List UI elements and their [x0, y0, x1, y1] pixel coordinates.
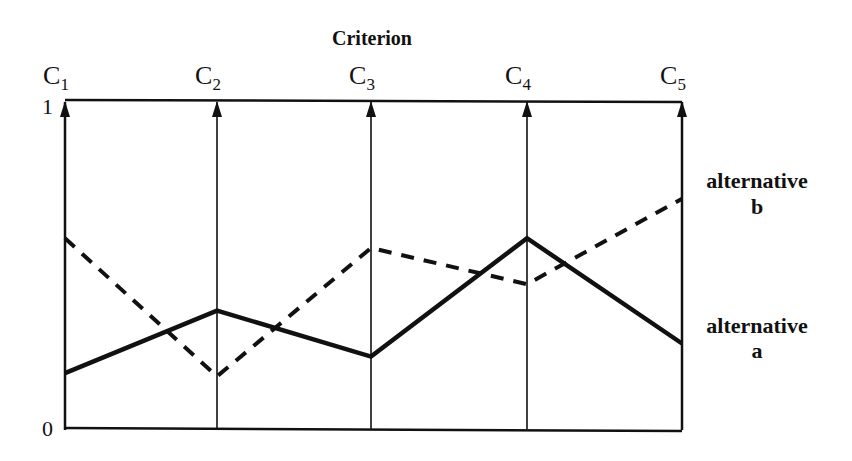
y-tick-max: 1 — [42, 94, 53, 119]
legend-alternative-b: alternative b — [706, 168, 808, 219]
parallel-coordinates-chart: Criterion C1C2C3C4C5 1 0 alternative b a… — [0, 0, 852, 461]
series-lines — [65, 199, 682, 377]
criterion-label-2: C2 — [195, 61, 221, 94]
series-line-alternative-b — [65, 199, 682, 377]
chart-title: Criterion — [332, 27, 412, 49]
criterion-label-3: C3 — [349, 61, 375, 94]
legend-label-a-line2: a — [752, 338, 763, 363]
criterion-axes: C1C2C3C4C5 — [43, 61, 686, 430]
criterion-label-5: C5 — [660, 61, 686, 94]
series-line-alternative-a — [65, 238, 682, 373]
legend-label-b-line1: alternative — [706, 168, 808, 193]
criterion-label-4: C4 — [505, 61, 531, 94]
baseline-axis — [65, 428, 682, 431]
top-boundary-line — [65, 100, 682, 102]
legend-alternative-a: alternative a — [706, 313, 808, 363]
legend-label-b-line2: b — [751, 194, 763, 219]
criterion-label-1: C1 — [43, 61, 69, 94]
legend-label-a-line1: alternative — [706, 313, 808, 338]
y-tick-min: 0 — [42, 416, 53, 441]
